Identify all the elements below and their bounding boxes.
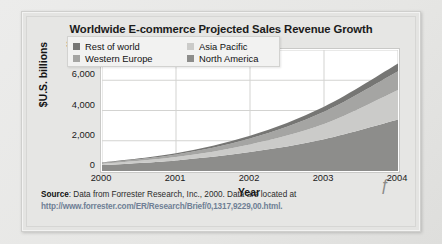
y-tick-1: 6,000 bbox=[72, 69, 95, 79]
chart-title: Worldwide E-commerce Projected Sales Rev… bbox=[27, 23, 415, 35]
figure-page: Worldwide E-commerce Projected Sales Rev… bbox=[0, 0, 442, 244]
source-note: Source: Data from Forrester Research, In… bbox=[41, 189, 405, 212]
figure-inner-frame: Worldwide E-commerce Projected Sales Rev… bbox=[26, 16, 416, 227]
legend-swatch-asia-pacific bbox=[187, 43, 194, 50]
x-tick-1: 2001 bbox=[154, 173, 196, 183]
x-axis-tick-labels: 20002001200220032004 bbox=[101, 173, 397, 187]
x-tick-0: 2000 bbox=[80, 173, 122, 183]
legend-label-rest-of-world: Rest of world bbox=[85, 41, 140, 52]
source-url[interactable]: http://www.forrester.com/ER/Research/Bri… bbox=[41, 202, 282, 211]
legend-label-north-america: North America bbox=[199, 53, 258, 64]
y-tick-4: 0 bbox=[90, 160, 95, 170]
legend-swatch-north-america bbox=[187, 55, 194, 62]
legend-swatch-rest-of-world bbox=[73, 43, 80, 50]
x-tick-2: 2002 bbox=[228, 173, 270, 183]
legend-row-2: Western Europe North America bbox=[73, 52, 274, 64]
x-tick-3: 2003 bbox=[302, 173, 344, 183]
legend-label-asia-pacific: Asia Pacific bbox=[199, 41, 247, 52]
legend-row-1: Rest of world Asia Pacific bbox=[73, 40, 274, 52]
source-text: : Data from Forrester Research, Inc., 20… bbox=[69, 190, 297, 199]
figure-card: Worldwide E-commerce Projected Sales Rev… bbox=[21, 11, 421, 232]
stacked-area-graphic bbox=[102, 50, 398, 171]
legend-item-western-europe: Western Europe bbox=[73, 53, 187, 64]
legend-item-asia-pacific: Asia Pacific bbox=[187, 41, 247, 52]
y-tick-3: 2,000 bbox=[72, 130, 95, 140]
plot-area-wrapper bbox=[101, 49, 397, 170]
legend-label-western-europe: Western Europe bbox=[85, 53, 153, 64]
legend-item-north-america: North America bbox=[187, 53, 258, 64]
legend-item-rest-of-world: Rest of world bbox=[73, 41, 187, 52]
y-tick-2: 4,000 bbox=[72, 100, 95, 110]
source-label: Source bbox=[41, 190, 69, 199]
legend-swatch-western-europe bbox=[73, 55, 80, 62]
plot-area bbox=[101, 49, 399, 172]
chart-legend: Rest of world Asia Pacific Western Europ… bbox=[67, 36, 280, 67]
